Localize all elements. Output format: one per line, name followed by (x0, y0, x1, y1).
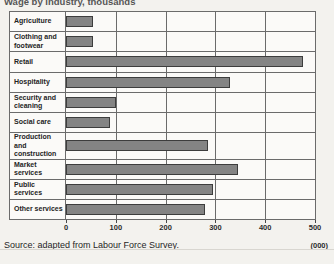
bar-track (66, 52, 315, 71)
bar-track (66, 32, 315, 51)
category-label: Production and construction (10, 133, 66, 159)
category-label: Social care (10, 113, 66, 132)
bar (66, 164, 238, 175)
chart-row: Production and construction (10, 133, 315, 160)
bar (66, 36, 93, 47)
chart-rows: AgricultureClothing and footwearRetailHo… (10, 12, 315, 219)
bar-track (66, 180, 315, 199)
chart-row: Public services (10, 180, 315, 200)
axis-tick-label: 100 (110, 223, 123, 232)
category-label: Market services (10, 160, 66, 179)
category-label: Other services (10, 200, 66, 219)
chart-frame: AgricultureClothing and footwearRetailHo… (9, 11, 316, 220)
gridline (315, 12, 316, 219)
axis-unit-label: (000) (310, 241, 328, 250)
x-axis: 0100200300400500 (9, 220, 316, 236)
bar-track (66, 160, 315, 179)
bar (66, 56, 303, 67)
category-label: Retail (10, 52, 66, 71)
category-label: Security and cleaning (10, 93, 66, 112)
chart-row: Clothing and footwear (10, 32, 315, 52)
bar (66, 140, 208, 151)
axis-tick-label: 300 (209, 223, 222, 232)
category-label: Public services (10, 180, 66, 199)
bar (66, 97, 116, 108)
chart-row: Retail (10, 52, 315, 72)
chart-row: Other services (10, 200, 315, 219)
category-label: Agriculture (10, 12, 66, 31)
category-label: Hospitality (10, 73, 66, 92)
page-title: Wage by industry, thousands (4, 0, 244, 8)
bar (66, 16, 93, 27)
axis-tick-label: 500 (309, 223, 322, 232)
bar-track (66, 73, 315, 92)
source-note: Source: adapted from Labour Force Survey… (4, 240, 179, 250)
chart-row: Social care (10, 113, 315, 133)
bar (66, 77, 230, 88)
chart-row: Security and cleaning (10, 93, 315, 113)
bar-track (66, 113, 315, 132)
bar (66, 204, 205, 215)
bar-track (66, 133, 315, 159)
category-label: Clothing and footwear (10, 32, 66, 51)
bar (66, 184, 213, 195)
axis-tick-label: 0 (64, 223, 68, 232)
bar-track (66, 93, 315, 112)
axis-tick-label: 400 (259, 223, 272, 232)
bar-track (66, 200, 315, 219)
bar (66, 117, 110, 128)
chart-row: Market services (10, 160, 315, 180)
chart-page: Wage by industry, thousands AgricultureC… (0, 0, 334, 264)
bar-track (66, 12, 315, 31)
page-edge (0, 249, 334, 264)
chart-row: Hospitality (10, 73, 315, 93)
axis-tick-label: 200 (159, 223, 172, 232)
chart-row: Agriculture (10, 12, 315, 32)
